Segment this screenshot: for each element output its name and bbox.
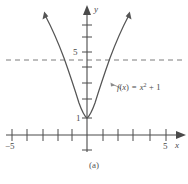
function-label-constant: 1 — [156, 82, 160, 92]
function-label-plus: + — [149, 82, 154, 92]
x-axis — [6, 129, 186, 141]
coordinate-plane: y x −5 5 5 1 f(x)=x2+1 — [0, 0, 188, 184]
y-tick-label-one: 1 — [76, 113, 81, 123]
svg-text:f(x)=x2+1: f(x)=x2+1 — [117, 82, 160, 93]
x-tick-label-minus-five: −5 — [5, 141, 15, 151]
function-label: f(x)=x2+1 — [117, 82, 160, 93]
x-tick-label-five: 5 — [163, 141, 168, 151]
y-axis — [82, 5, 92, 152]
function-label-close-paren: ) — [126, 82, 129, 92]
function-label-exponent: 2 — [143, 82, 146, 88]
y-axis-label: y — [93, 4, 98, 14]
graph-figure: y x −5 5 5 1 f(x)=x2+1 — [0, 0, 188, 184]
y-tick-label-five: 5 — [73, 47, 78, 57]
function-label-equals: = — [132, 82, 137, 92]
x-axis-label: x — [174, 140, 179, 150]
figure-caption: (a) — [0, 160, 188, 170]
